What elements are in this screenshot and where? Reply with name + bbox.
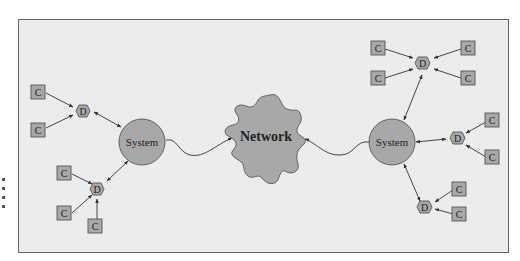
client-node: C — [31, 123, 45, 137]
svg-text:C: C — [465, 43, 472, 54]
system-node-left: System — [119, 119, 165, 165]
svg-text:C: C — [489, 115, 496, 126]
client-node: C — [485, 150, 499, 164]
svg-text:C: C — [456, 184, 463, 195]
client-node: C — [88, 219, 102, 233]
svg-text:D: D — [454, 133, 461, 144]
client-node: C — [57, 206, 71, 220]
network-label: Network — [240, 129, 292, 144]
client-node: C — [485, 113, 499, 127]
svg-text:C: C — [92, 221, 99, 232]
system-node-right: System — [369, 119, 415, 165]
svg-text:C: C — [465, 73, 472, 84]
svg-text:C: C — [375, 73, 382, 84]
device-node: D — [417, 201, 432, 213]
svg-text:D: D — [419, 58, 426, 69]
client-node: C — [31, 85, 45, 99]
system-label: System — [376, 136, 409, 148]
svg-text:C: C — [489, 152, 496, 163]
client-node: C — [57, 166, 71, 180]
svg-text:C: C — [375, 43, 382, 54]
client-node: C — [461, 71, 475, 85]
device-node: D — [90, 183, 104, 195]
client-node: C — [461, 41, 475, 55]
svg-text:D: D — [421, 202, 428, 213]
client-node: C — [371, 71, 385, 85]
svg-text:C: C — [35, 87, 42, 98]
svg-text:C: C — [61, 208, 68, 219]
svg-text:C: C — [35, 125, 42, 136]
device-node: D — [76, 105, 90, 117]
svg-text:C: C — [61, 168, 68, 179]
device-node: D — [415, 57, 430, 69]
system-label: System — [126, 136, 159, 148]
client-node: C — [452, 182, 466, 196]
svg-text:C: C — [456, 209, 463, 220]
client-node: C — [452, 207, 466, 221]
network-diagram: Network System D C C D C C C System — [0, 0, 520, 261]
device-node: D — [450, 132, 465, 144]
svg-text:D: D — [93, 184, 100, 195]
svg-text:D: D — [79, 106, 86, 117]
client-node: C — [371, 41, 385, 55]
